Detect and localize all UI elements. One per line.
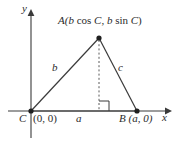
geometry-figure: A(b cos C, b sin C) b c a C (0, 0) B (a,…: [0, 0, 176, 142]
apex-label-close-paren: ): [138, 14, 142, 26]
y-axis-label: y: [22, 3, 27, 14]
right-angle-marker-icon: [99, 101, 109, 111]
x-axis-label: x: [162, 112, 167, 123]
triangle-side-b: [31, 38, 99, 111]
y-axis-arrow-icon: [28, 9, 35, 16]
apex-label-angle2: C: [131, 14, 138, 26]
vertex-b-coordinates: (a, 0): [128, 112, 152, 124]
vertex-dot-a: [96, 35, 101, 40]
vertex-label-b: B (a, 0): [119, 113, 152, 124]
side-label-a: a: [76, 113, 82, 124]
apex-label-cos: cos: [74, 14, 94, 26]
vertex-b-letter: B: [119, 112, 126, 124]
side-label-b: b: [52, 62, 58, 73]
apex-label-sin: sin: [112, 14, 130, 26]
triangle-side-c: [99, 38, 137, 111]
vertex-label-c: C: [19, 113, 26, 124]
origin-coordinates-label: (0, 0): [33, 113, 57, 124]
apex-point-label: A(b cos C, b sin C): [58, 15, 142, 26]
side-label-c: c: [118, 62, 123, 73]
apex-label-a: A(: [58, 14, 68, 26]
